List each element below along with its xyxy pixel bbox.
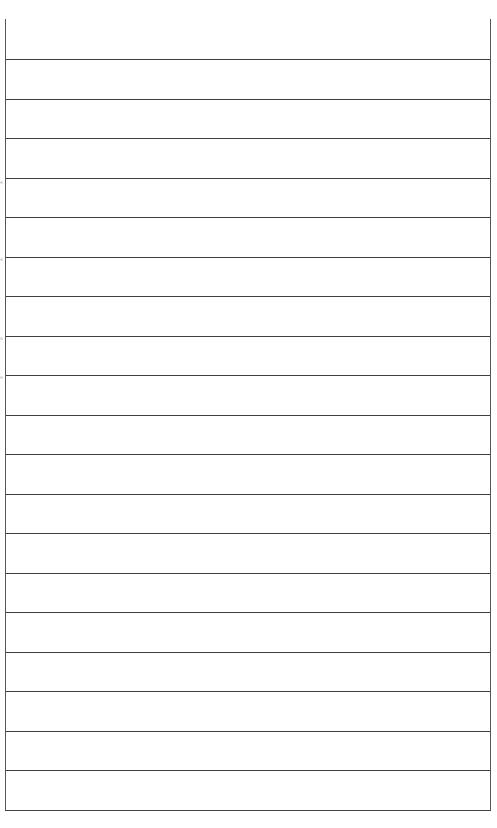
ruled-line — [6, 652, 490, 653]
ruled-line — [6, 178, 490, 179]
scan-artifact — [0, 258, 3, 261]
ruled-line — [6, 99, 490, 100]
ruled-line — [6, 533, 490, 534]
ruled-line — [6, 138, 490, 139]
ruled-line — [6, 296, 490, 297]
ruled-writing-area — [5, 19, 491, 811]
scan-artifact — [0, 181, 3, 184]
ruled-line — [6, 612, 490, 613]
ruled-line — [6, 59, 490, 60]
ruled-line — [6, 336, 490, 337]
ruled-line — [6, 454, 490, 455]
ruled-line — [6, 573, 490, 574]
ruled-line — [6, 415, 490, 416]
ruled-line — [6, 691, 490, 692]
lined-page — [0, 0, 497, 828]
ruled-line — [6, 731, 490, 732]
ruled-line — [6, 257, 490, 258]
ruled-line — [6, 375, 490, 376]
scan-artifact — [0, 376, 3, 379]
ruled-line — [6, 494, 490, 495]
scan-artifact — [0, 337, 3, 340]
ruled-line — [6, 770, 490, 771]
ruled-line — [6, 217, 490, 218]
